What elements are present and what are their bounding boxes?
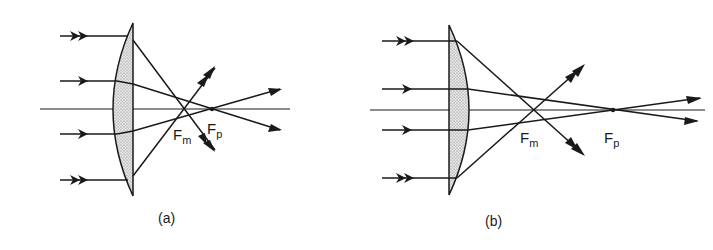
focal-label-fm: Fm	[173, 126, 191, 146]
plano-convex-lens	[113, 23, 133, 196]
panel-a: Fm Fp (a)	[40, 23, 290, 226]
panel-caption-a: (a)	[158, 210, 175, 226]
paraxial-focus-dot	[611, 108, 615, 112]
lens-aberration-diagram: Fm Fp (a)	[0, 0, 713, 250]
marginal-rays	[133, 40, 215, 176]
focal-label-fm: Fm	[520, 129, 538, 149]
focal-label-fp: Fp	[604, 129, 619, 149]
paraxial-focus-dot	[210, 107, 214, 111]
panel-b: Fm Fp (b)	[370, 25, 705, 229]
panel-caption-b: (b)	[485, 213, 502, 229]
focal-label-fp: Fp	[207, 120, 222, 140]
